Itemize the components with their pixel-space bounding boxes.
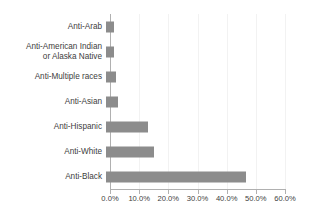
bar-cell <box>106 89 307 114</box>
bar-row: Anti-Arab <box>0 14 311 39</box>
bar-cell <box>106 114 307 139</box>
x-tick-label: 20.0% <box>158 194 180 204</box>
category-label: Anti-Arab <box>0 22 106 32</box>
bar-row: Anti-American Indian or Alaska Native <box>0 39 311 64</box>
bar <box>106 46 114 57</box>
bar <box>106 71 116 82</box>
category-label: Anti-White <box>0 147 106 157</box>
bar-row: Anti-White <box>0 139 311 164</box>
bar-cell <box>106 39 307 64</box>
bar-row: Anti-Asian <box>0 89 311 114</box>
bar-chart: Anti-ArabAnti-American Indian or Alaska … <box>0 0 311 213</box>
x-tick-label: 10.0% <box>128 194 150 204</box>
bar-rows: Anti-ArabAnti-American Indian or Alaska … <box>0 14 311 189</box>
bar-cell <box>106 139 307 164</box>
x-tick-label: 0.0% <box>101 194 118 204</box>
bar <box>106 146 154 157</box>
x-tick-label: 30.0% <box>187 194 209 204</box>
bar-cell <box>106 14 307 39</box>
bar <box>106 171 246 182</box>
x-tick-label: 50.0% <box>245 194 267 204</box>
x-axis-tick-labels: 0.0%10.0%20.0%30.0%40.0%50.0%60.0% <box>0 194 311 208</box>
x-tick-label: 40.0% <box>216 194 238 204</box>
bar <box>106 96 118 107</box>
bar <box>106 21 114 32</box>
bar-row: Anti-Hispanic <box>0 114 311 139</box>
x-tick-label: 60.0% <box>274 194 296 204</box>
bar-row: Anti-Black <box>0 164 311 189</box>
bar-cell <box>106 64 307 89</box>
category-label: Anti-Asian <box>0 97 106 107</box>
bar-cell <box>106 164 307 189</box>
category-label: Anti-Hispanic <box>0 122 106 132</box>
category-label: Anti-Black <box>0 172 106 182</box>
bar-row: Anti-Multiple races <box>0 64 311 89</box>
category-label: Anti-American Indian or Alaska Native <box>0 42 106 61</box>
category-label: Anti-Multiple races <box>0 72 106 82</box>
bar <box>106 121 148 132</box>
